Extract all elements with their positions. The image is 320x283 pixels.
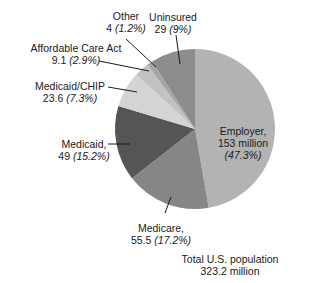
label-medicaid-value: 49 [58,150,70,162]
label-medicare-value: 55.5 [131,234,151,246]
label-medicare-name: Medicare, [126,222,196,234]
label-medicaid: Medicaid, 49 (15.2%) [56,138,112,162]
label-uninsured-pct: (9%) [169,23,191,35]
leader-other [126,39,156,67]
label-uninsured-value: 29 [155,23,167,35]
label-medicare-pct: (17.2%) [154,234,191,246]
label-aca-name: Affordable Care Act [26,42,126,54]
label-employer-pct: (47.3%) [208,149,278,161]
label-employer-line1: Employer, [208,125,278,137]
label-aca-pct: (2.9%) [69,54,100,66]
label-other-value: 4 [106,22,112,34]
label-employer: Employer, 153 million (47.3%) [208,125,278,161]
label-other-name: Other [103,10,149,22]
label-uninsured: Uninsured 29 (9%) [144,11,202,35]
label-chip-value: 23.6 [43,92,63,104]
label-medicare: Medicare, 55.5 (17.2%) [126,222,196,246]
label-chip-name: Medicaid/CHIP [34,80,106,92]
label-other: Other 4 (1.2%) [103,10,149,34]
label-other-pct: (1.2%) [115,22,146,34]
label-medicaid-name: Medicaid, [56,138,112,150]
label-aca: Affordable Care Act 9.1 (2.9%) [26,42,126,66]
label-total-line2: 323.2 million [175,265,285,277]
label-aca-value: 9.1 [52,54,67,66]
label-medicaid-pct: (15.2%) [73,150,110,162]
label-total-line1: Total U.S. population [175,253,285,265]
label-chip-pct: (7.3%) [66,92,97,104]
label-uninsured-name: Uninsured [144,11,202,23]
label-total-population: Total U.S. population 323.2 million [175,253,285,277]
label-employer-line2: 153 million [208,137,278,149]
label-chip: Medicaid/CHIP 23.6 (7.3%) [34,80,106,104]
